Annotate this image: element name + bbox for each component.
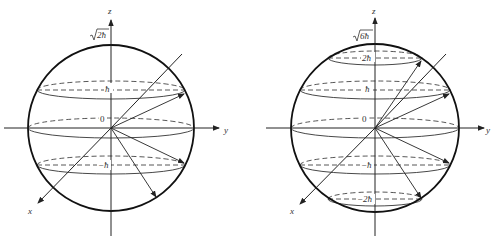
right-sphere-diagram: z y x 6ħ 2ħ ħ 0 −ħ −2ħ [266,6,490,236]
level-label-minus-2hbar: −2ħ [357,194,373,204]
x-axis-label: x [289,206,294,216]
left-sphere-diagram: z y x 2ħ ħ 0 −ħ [4,6,228,236]
z-axis-label: z [107,6,112,16]
figure-canvas: z y x 2ħ ħ 0 −ħ [0,0,492,242]
level-label-2hbar: 2ħ [362,53,372,63]
level-label-zero: 0 [362,114,367,124]
level-label-hbar: ħ [105,84,110,94]
radius-label-text: 6ħ [360,31,370,41]
radius-label: 6ħ [353,30,373,41]
x-axis-label: x [27,206,32,216]
level-label-minus-hbar: −ħ [361,160,372,170]
x-axis-back-extension [111,54,182,128]
level-label-zero: 0 [100,114,105,124]
y-axis-label: y [223,125,228,135]
radius-label-text: 2ħ [97,30,107,40]
level-label-minus-hbar: −ħ [98,160,109,170]
radius-label: 2ħ [90,29,109,40]
y-axis-label: y [485,125,490,135]
z-axis-label: z [371,6,376,16]
level-label-hbar: ħ [365,84,370,94]
